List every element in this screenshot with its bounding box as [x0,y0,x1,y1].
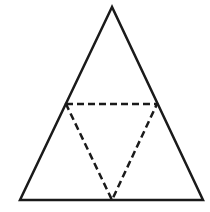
triangle-figure [0,0,210,212]
diagram-canvas [0,0,210,212]
inner-dashed-triangle [66,104,157,200]
